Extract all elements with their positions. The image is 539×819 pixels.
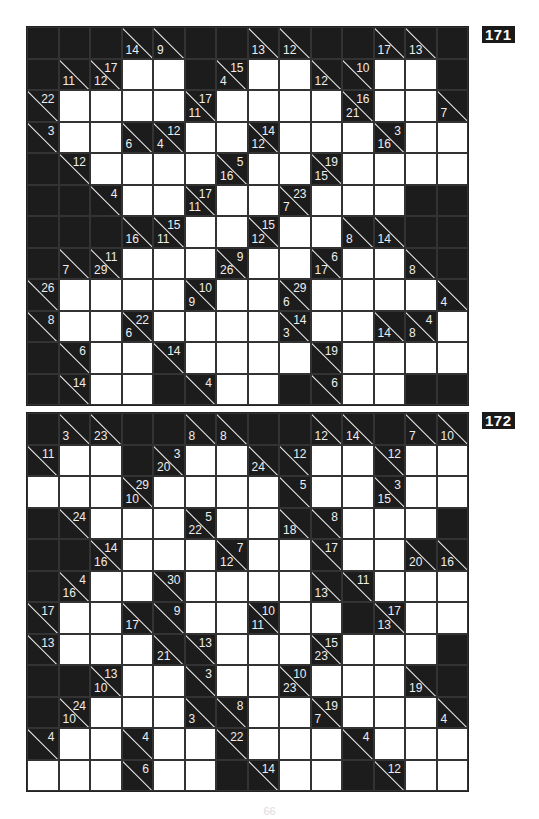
entry-cell[interactable]: [153, 539, 185, 571]
entry-cell[interactable]: [279, 571, 311, 603]
entry-cell[interactable]: [374, 634, 406, 666]
entry-cell[interactable]: [279, 342, 311, 374]
entry-cell[interactable]: [27, 760, 59, 792]
entry-cell[interactable]: [153, 90, 185, 122]
entry-cell[interactable]: [374, 665, 406, 697]
entry-cell[interactable]: [122, 571, 154, 603]
entry-cell[interactable]: [248, 374, 280, 406]
entry-cell[interactable]: [216, 185, 248, 217]
entry-cell[interactable]: [279, 728, 311, 760]
entry-cell[interactable]: [122, 374, 154, 406]
entry-cell[interactable]: [90, 279, 122, 311]
entry-cell[interactable]: [248, 59, 280, 91]
entry-cell[interactable]: [59, 122, 91, 154]
entry-cell[interactable]: [279, 602, 311, 634]
entry-cell[interactable]: [185, 476, 217, 508]
entry-cell[interactable]: [216, 122, 248, 154]
entry-cell[interactable]: [216, 571, 248, 603]
entry-cell[interactable]: [342, 185, 374, 217]
entry-cell[interactable]: [405, 571, 437, 603]
entry-cell[interactable]: [342, 153, 374, 185]
entry-cell[interactable]: [342, 374, 374, 406]
entry-cell[interactable]: [153, 508, 185, 540]
entry-cell[interactable]: [59, 90, 91, 122]
entry-cell[interactable]: [279, 59, 311, 91]
entry-cell[interactable]: [437, 728, 469, 760]
entry-cell[interactable]: [374, 279, 406, 311]
entry-cell[interactable]: [279, 90, 311, 122]
entry-cell[interactable]: [122, 665, 154, 697]
entry-cell[interactable]: [122, 508, 154, 540]
entry-cell[interactable]: [437, 760, 469, 792]
entry-cell[interactable]: [437, 445, 469, 477]
entry-cell[interactable]: [437, 476, 469, 508]
entry-cell[interactable]: [59, 728, 91, 760]
entry-cell[interactable]: [185, 602, 217, 634]
entry-cell[interactable]: [342, 311, 374, 343]
entry-cell[interactable]: [279, 697, 311, 729]
entry-cell[interactable]: [122, 697, 154, 729]
entry-cell[interactable]: [90, 374, 122, 406]
entry-cell[interactable]: [248, 153, 280, 185]
entry-cell[interactable]: [374, 59, 406, 91]
entry-cell[interactable]: [279, 153, 311, 185]
entry-cell[interactable]: [342, 476, 374, 508]
entry-cell[interactable]: [185, 153, 217, 185]
entry-cell[interactable]: [405, 728, 437, 760]
entry-cell[interactable]: [405, 445, 437, 477]
entry-cell[interactable]: [216, 508, 248, 540]
entry-cell[interactable]: [153, 760, 185, 792]
entry-cell[interactable]: [59, 634, 91, 666]
entry-cell[interactable]: [311, 185, 343, 217]
entry-cell[interactable]: [437, 122, 469, 154]
entry-cell[interactable]: [437, 311, 469, 343]
entry-cell[interactable]: [279, 122, 311, 154]
entry-cell[interactable]: [437, 571, 469, 603]
entry-cell[interactable]: [122, 59, 154, 91]
entry-cell[interactable]: [374, 248, 406, 280]
entry-cell[interactable]: [90, 476, 122, 508]
entry-cell[interactable]: [311, 311, 343, 343]
entry-cell[interactable]: [279, 216, 311, 248]
entry-cell[interactable]: [122, 248, 154, 280]
entry-cell[interactable]: [437, 602, 469, 634]
entry-cell[interactable]: [405, 279, 437, 311]
entry-cell[interactable]: [342, 697, 374, 729]
entry-cell[interactable]: [405, 59, 437, 91]
entry-cell[interactable]: [90, 728, 122, 760]
entry-cell[interactable]: [279, 760, 311, 792]
entry-cell[interactable]: [90, 634, 122, 666]
entry-cell[interactable]: [374, 539, 406, 571]
entry-cell[interactable]: [59, 279, 91, 311]
entry-cell[interactable]: [248, 279, 280, 311]
entry-cell[interactable]: [405, 508, 437, 540]
entry-cell[interactable]: [185, 728, 217, 760]
entry-cell[interactable]: [122, 279, 154, 311]
entry-cell[interactable]: [311, 90, 343, 122]
entry-cell[interactable]: [405, 122, 437, 154]
entry-cell[interactable]: [374, 697, 406, 729]
entry-cell[interactable]: [153, 665, 185, 697]
entry-cell[interactable]: [437, 342, 469, 374]
entry-cell[interactable]: [405, 760, 437, 792]
entry-cell[interactable]: [248, 476, 280, 508]
entry-cell[interactable]: [437, 153, 469, 185]
entry-cell[interactable]: [216, 311, 248, 343]
entry-cell[interactable]: [374, 90, 406, 122]
entry-cell[interactable]: [216, 665, 248, 697]
entry-cell[interactable]: [153, 59, 185, 91]
entry-cell[interactable]: [122, 342, 154, 374]
entry-cell[interactable]: [311, 728, 343, 760]
entry-cell[interactable]: [248, 508, 280, 540]
entry-cell[interactable]: [122, 634, 154, 666]
entry-cell[interactable]: [59, 311, 91, 343]
entry-cell[interactable]: [342, 279, 374, 311]
entry-cell[interactable]: [185, 445, 217, 477]
entry-cell[interactable]: [374, 342, 406, 374]
entry-cell[interactable]: [122, 539, 154, 571]
entry-cell[interactable]: [59, 602, 91, 634]
entry-cell[interactable]: [90, 760, 122, 792]
entry-cell[interactable]: [374, 728, 406, 760]
entry-cell[interactable]: [311, 122, 343, 154]
entry-cell[interactable]: [59, 760, 91, 792]
